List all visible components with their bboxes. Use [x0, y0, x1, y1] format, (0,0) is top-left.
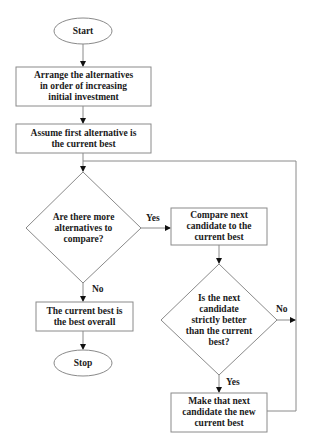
stop-label: Stop	[54, 350, 112, 376]
assume-label: Assume first alternative is the current …	[16, 124, 151, 153]
compare-label: Compare next candidate to the current be…	[171, 208, 267, 245]
best-overall-label: The current best is the best overall	[36, 302, 133, 331]
edge-label-no-more: No	[92, 284, 104, 294]
connector-loop-return	[83, 161, 296, 411]
edge-label-yes-better: Yes	[226, 377, 240, 387]
arrange-label: Arrange the alternatives in order of inc…	[16, 67, 151, 106]
strictly-better-label: Is the next candidate strictly better th…	[169, 290, 269, 350]
make-new-best-label: Make that next candidate the new current…	[171, 393, 267, 432]
edge-label-yes-more: Yes	[146, 213, 160, 223]
more-alternatives-label: Are there more alternatives to compare?	[36, 205, 131, 251]
start-label: Start	[54, 18, 112, 44]
edge-label-no-better: No	[276, 304, 288, 314]
